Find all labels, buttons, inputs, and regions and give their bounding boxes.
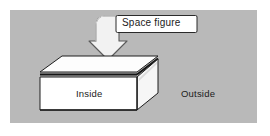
callout-label-space-figure: Space figure <box>122 18 181 28</box>
label-inside: Inside <box>76 89 103 99</box>
rectangular-prism <box>40 56 158 110</box>
prism-top-face <box>40 56 158 72</box>
space-figure-diagram: Space figure Inside Outside <box>0 0 270 136</box>
label-outside: Outside <box>181 89 215 99</box>
